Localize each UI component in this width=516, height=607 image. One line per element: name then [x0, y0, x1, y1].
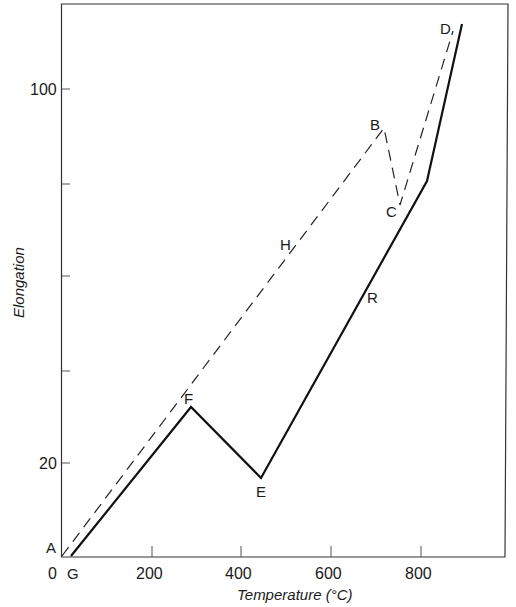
curve-label-r: R — [367, 289, 378, 306]
y-axis-ticks — [62, 89, 70, 463]
plot-frame — [62, 4, 509, 557]
point-label-f: F — [184, 390, 193, 407]
y-tick-label-20: 20 — [39, 455, 57, 472]
y-axis-title: Elongation — [10, 247, 27, 318]
point-label-g: G — [67, 565, 79, 582]
curve-label-h: H — [280, 236, 291, 253]
x-tick-label-0: 0 — [48, 565, 57, 582]
x-tick-label-800: 800 — [405, 565, 432, 582]
x-tick-label-600: 600 — [315, 565, 342, 582]
y-tick-label-100: 100 — [30, 81, 57, 98]
x-tick-label-400: 400 — [225, 565, 252, 582]
curve-h-dashed — [62, 31, 453, 556]
point-label-d: D — [440, 20, 451, 37]
chart: 0 200 400 600 800 100 20 Temperature (°C… — [0, 0, 516, 607]
x-axis-title: Temperature (°C) — [237, 586, 352, 603]
x-axis-ticks — [152, 546, 421, 557]
point-label-a: A — [46, 539, 56, 556]
point-label-b: B — [370, 116, 380, 133]
point-label-e: E — [256, 483, 266, 500]
point-label-c: C — [386, 203, 397, 220]
x-tick-label-200: 200 — [136, 565, 163, 582]
curve-r-solid — [71, 24, 462, 556]
